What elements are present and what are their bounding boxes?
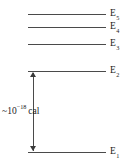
energy-level-line-e2 xyxy=(28,71,106,72)
energy-label-sub-e5: 5 xyxy=(116,14,119,21)
energy-level-line-e1 xyxy=(28,152,106,153)
energy-gap-arrowhead-up xyxy=(30,72,36,77)
energy-label-sub-e4: 4 xyxy=(116,27,119,34)
annotation-unit: cal xyxy=(28,106,39,116)
energy-level-line-e3 xyxy=(28,44,106,45)
energy-level-label-e5: E5 xyxy=(110,9,119,20)
energy-label-sub-e3: 3 xyxy=(116,44,119,51)
energy-level-label-e2: E2 xyxy=(110,66,119,77)
energy-level-diagram: E5 E4 E3 E2 E1 ~10−18cal xyxy=(0,0,131,167)
energy-label-sub-e1: 1 xyxy=(116,152,119,159)
annotation-exponent: −18 xyxy=(17,103,27,110)
energy-level-label-e3: E3 xyxy=(110,39,119,50)
energy-level-line-e5 xyxy=(28,14,106,15)
energy-level-line-e4 xyxy=(28,27,106,28)
energy-level-label-e4: E4 xyxy=(110,22,119,33)
energy-label-sub-e2: 2 xyxy=(116,71,119,78)
energy-gap-arrowhead-down xyxy=(30,146,36,151)
energy-gap-annotation: ~10−18cal xyxy=(2,105,39,117)
annotation-mantissa: 10 xyxy=(7,106,17,116)
energy-level-label-e1: E1 xyxy=(110,147,119,158)
